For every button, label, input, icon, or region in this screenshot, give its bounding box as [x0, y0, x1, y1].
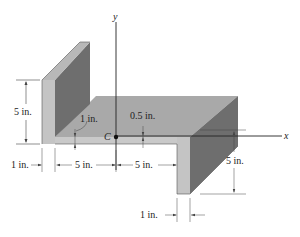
dim-web-thickness: 1 in. [80, 114, 98, 124]
dim-right-flange-height: 5 in. [226, 156, 244, 166]
dim-right-flange-thickness: 1 in. [140, 210, 158, 220]
x-axis-label: x [284, 131, 288, 141]
centroid-label: C [104, 132, 111, 142]
dim-centroid-offset: 0.5 in. [130, 111, 155, 121]
dim-web-right-length: 5 in. [135, 160, 153, 170]
dim-web-left-length: 5 in. [75, 160, 93, 170]
dim-left-flange-thickness: 1 in. [11, 160, 29, 170]
dim-left-flange-height: 5 in. [14, 107, 32, 117]
left-flange-front-face [42, 80, 55, 144]
centroid-point [114, 135, 118, 139]
right-flange-front-face [177, 137, 190, 194]
y-axis-label: y [113, 12, 117, 22]
z-section-diagram: y x C 5 in. 1 in. 0.5 in. 1 in. 5 in. 5 … [0, 0, 300, 237]
